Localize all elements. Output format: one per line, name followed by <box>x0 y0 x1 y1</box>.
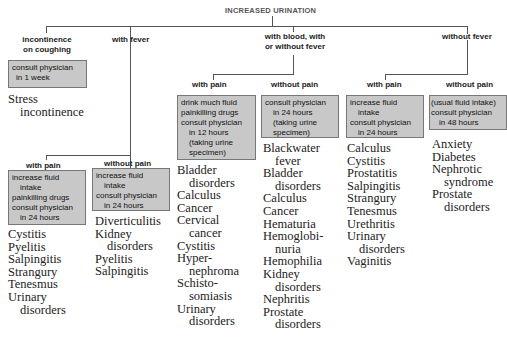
advice-box: drink much fluid painkilling drugs consu… <box>177 95 256 160</box>
advice-box: increase fluid intake consult physician … <box>92 168 170 211</box>
sub-label-with-pain: with pain <box>192 80 227 90</box>
branch-label: without fever <box>442 32 492 42</box>
diagram-title: INCREASED URINATION <box>225 6 316 15</box>
advice-box: consult physician in 24 hours (taking ur… <box>261 95 339 138</box>
condition-list: Bladder disorders Calculus Cancer Cervic… <box>177 164 239 328</box>
sub-label-without-pain: without pain <box>446 80 493 90</box>
condition-list: Anxiety Diabetes Nephrotic syndrome Pros… <box>432 138 493 214</box>
condition-list: Diverticulitis Kidney disorders Pyelitis… <box>95 215 161 278</box>
condition-list: Blackwater fever Bladder disorders Calcu… <box>263 142 323 331</box>
advice-box: (usual fluid intake) consult physician i… <box>429 95 507 130</box>
sub-label-without-pain: without pain <box>271 80 318 90</box>
condition-list: Stress incontinence <box>8 93 84 118</box>
advice-box: consult physician in 1 week <box>8 60 87 88</box>
advice-box: increase fluid intake painkilling drugs … <box>8 170 86 225</box>
branch-label: with fever <box>112 35 149 45</box>
branch-label: incontinence on coughing <box>18 35 76 55</box>
condition-list: Cystitis Pyelitis Salpingitis Strangury … <box>8 228 66 316</box>
sub-label-with-pain: with pain <box>367 80 402 90</box>
branch-label: with blood, with or without fever <box>260 32 330 52</box>
condition-list: Calculus Cystitis Prostatitis Salpingiti… <box>347 142 405 268</box>
advice-box: increase fluid intake consult physician … <box>346 95 424 138</box>
